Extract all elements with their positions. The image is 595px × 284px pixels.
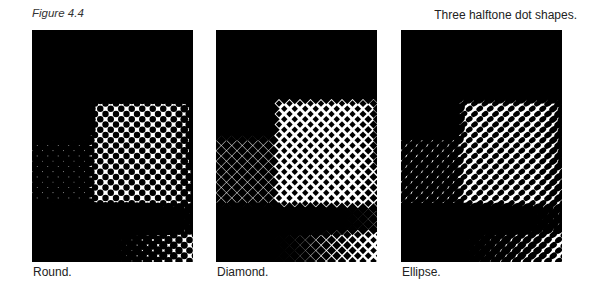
halftone-diamond-panel: [216, 30, 377, 262]
figure-number: Figure 4.4: [32, 7, 84, 19]
round-label: Round.: [33, 265, 72, 279]
figure-caption: Three halftone dot shapes.: [434, 8, 577, 22]
ellipse-halftone-image: [401, 30, 562, 262]
halftone-ellipse-panel: [401, 30, 562, 262]
halftone-round-panel: [32, 30, 193, 262]
diamond-halftone-image: [216, 30, 377, 262]
ellipse-label: Ellipse.: [402, 265, 441, 279]
round-halftone-image: [32, 30, 193, 262]
diamond-label: Diamond.: [217, 265, 268, 279]
